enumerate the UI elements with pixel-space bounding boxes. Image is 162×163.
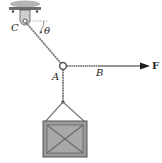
label-F: F [152,61,159,71]
sling-right [63,102,85,122]
statics-diagram [0,0,162,163]
sling-left [45,102,63,122]
label-C: C [11,23,19,33]
crate [43,121,87,157]
label-theta: θ [44,26,50,36]
force-arrowhead [140,63,150,70]
label-A: A [52,72,59,82]
joint-ring-A [60,63,67,70]
label-B: B [96,68,103,78]
